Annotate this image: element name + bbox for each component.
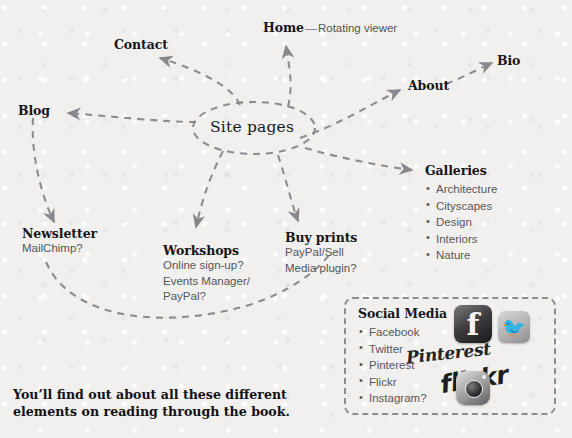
list-item: Flickr xyxy=(358,374,447,390)
node-contact[interactable]: Contact xyxy=(114,38,168,52)
galleries-list: Architecture Cityscapes Design Interiors… xyxy=(425,181,497,263)
link-home xyxy=(286,46,291,107)
node-workshops-title: Workshops xyxy=(163,244,250,258)
list-item: Nature xyxy=(425,247,497,263)
list-item: Interiors xyxy=(425,231,497,247)
node-buy-prints[interactable]: Buy prints PayPal/Sell Media plugin? xyxy=(285,231,357,276)
link-workshops xyxy=(196,151,223,227)
node-bio[interactable]: Bio xyxy=(497,54,520,68)
node-buy-prints-line: PayPal/Sell xyxy=(285,245,357,261)
list-item: Cityscapes xyxy=(425,198,497,214)
list-item: Facebook xyxy=(358,324,447,340)
node-newsletter-title: Newsletter xyxy=(22,227,97,241)
list-item: Architecture xyxy=(425,181,497,197)
node-newsletter-line: MailChimp? xyxy=(22,241,97,257)
node-home[interactable]: Home — Rotating viewer xyxy=(263,21,397,37)
node-bio-title: Bio xyxy=(497,54,520,68)
link-blog-newsletter xyxy=(33,118,54,222)
node-home-dash: — xyxy=(305,21,317,36)
center-node-label: Site pages xyxy=(210,118,294,136)
node-buy-prints-line: Media plugin? xyxy=(285,261,357,277)
node-home-title: Home xyxy=(263,21,304,35)
link-contact xyxy=(160,58,240,105)
node-blog[interactable]: Blog xyxy=(18,104,50,118)
social-media-text: Social Media Facebook Twitter Pinterest … xyxy=(358,307,447,407)
node-newsletter[interactable]: Newsletter MailChimp? xyxy=(22,227,97,257)
caption: You’ll find out about all these differen… xyxy=(13,386,290,421)
list-item: Twitter xyxy=(358,341,447,357)
link-galleries xyxy=(305,148,412,170)
node-workshops-line: Online sign-up? xyxy=(163,258,250,274)
node-about-title: About xyxy=(408,79,449,93)
node-about[interactable]: About xyxy=(408,79,449,93)
social-media-box[interactable]: Social Media Facebook Twitter Pinterest … xyxy=(344,297,556,415)
caption-line-2: elements on reading through the book. xyxy=(13,403,290,420)
node-galleries[interactable]: Galleries Architecture Cityscapes Design… xyxy=(425,164,497,264)
node-home-note: Rotating viewer xyxy=(318,21,397,37)
link-blog xyxy=(68,113,196,122)
caption-line-1: You’ll find out about all these differen… xyxy=(13,386,290,403)
node-workshops-line: Events Manager/ xyxy=(163,274,250,290)
node-galleries-title: Galleries xyxy=(425,164,497,178)
list-item: Instagram? xyxy=(358,390,447,406)
social-media-list: Facebook Twitter Pinterest Flickr Instag… xyxy=(358,324,447,406)
link-buyprints xyxy=(278,155,298,221)
node-workshops-line: PayPal? xyxy=(163,289,250,305)
list-item: Design xyxy=(425,214,497,230)
social-media-title: Social Media xyxy=(358,307,447,321)
node-contact-title: Contact xyxy=(114,38,168,52)
link-bio xyxy=(446,63,492,84)
list-item: Pinterest xyxy=(358,357,447,373)
mindmap-canvas: Contact Blog Home — Rotating viewer Abou… xyxy=(0,0,572,438)
node-buy-prints-title: Buy prints xyxy=(285,231,357,245)
node-workshops[interactable]: Workshops Online sign-up? Events Manager… xyxy=(163,244,250,305)
node-blog-title: Blog xyxy=(18,104,50,118)
